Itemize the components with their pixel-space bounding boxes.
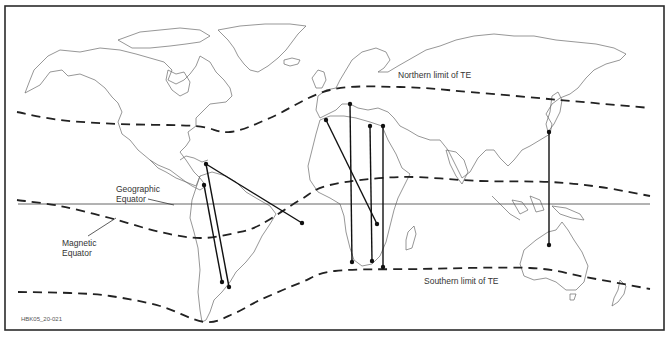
- path-endpoint-dot: [324, 118, 328, 122]
- path-endpoint-dot: [381, 124, 385, 128]
- path-endpoint-dot: [370, 259, 374, 263]
- propagation-path-6: [370, 126, 372, 261]
- southern-limit-label: Southern limit of TE: [424, 276, 499, 286]
- propagation-paths: [202, 102, 551, 289]
- northern-limit-line: [17, 86, 650, 132]
- path-endpoint-dot: [348, 102, 352, 106]
- path-endpoint-dot: [547, 243, 551, 247]
- geographic-equator-label-line1: Geographic: [116, 184, 160, 194]
- coast-arctic-islands: [118, 28, 210, 48]
- northern-limit-label: Northern limit of TE: [398, 70, 471, 80]
- figure-id: HBK05_20-021: [21, 316, 62, 322]
- world-map-te-propagation: Northern limit of TE Southern limit of T…: [0, 0, 670, 341]
- path-endpoint-dot: [227, 285, 231, 289]
- coast-africa: [308, 116, 410, 266]
- magnetic-equator-label-line2: Equator: [62, 248, 97, 258]
- magnetic-equator-line: [17, 177, 650, 238]
- path-endpoint-dot: [220, 280, 224, 284]
- coast-madagascar: [406, 226, 416, 250]
- coast-iceland: [284, 58, 300, 66]
- magnetic-equator-pointer: [88, 218, 116, 236]
- magnetic-equator-label: Magnetic Equator: [62, 238, 97, 258]
- propagation-path-1: [206, 164, 302, 223]
- geographic-equator-label-line2: Equator: [116, 194, 160, 204]
- path-endpoint-dot: [547, 130, 551, 134]
- coast-se-asia: [492, 196, 584, 220]
- path-endpoint-dot: [375, 222, 379, 226]
- map-canvas: [0, 0, 670, 341]
- propagation-path-5: [350, 104, 352, 262]
- coast-north-america: [25, 48, 232, 190]
- coast-tasmania: [570, 294, 576, 300]
- path-endpoint-dot: [381, 265, 385, 269]
- coastlines: [25, 24, 626, 322]
- path-endpoint-dot: [202, 183, 206, 187]
- magnetic-equator-label-line1: Magnetic: [62, 238, 97, 248]
- southern-limit-line: [18, 268, 650, 323]
- coast-eurasia: [316, 34, 626, 178]
- propagation-path-2: [206, 164, 229, 287]
- coast-australia: [520, 222, 588, 290]
- path-endpoint-dot: [300, 221, 304, 225]
- coast-central-america: [150, 156, 208, 186]
- coast-greenland: [218, 24, 306, 72]
- coast-south-america: [190, 172, 276, 322]
- path-endpoint-dot: [368, 124, 372, 128]
- path-endpoint-dot: [204, 162, 208, 166]
- path-endpoint-dot: [350, 260, 354, 264]
- map-frame: [5, 6, 664, 330]
- geographic-equator-label: Geographic Equator: [116, 184, 160, 204]
- coast-uk: [312, 70, 326, 88]
